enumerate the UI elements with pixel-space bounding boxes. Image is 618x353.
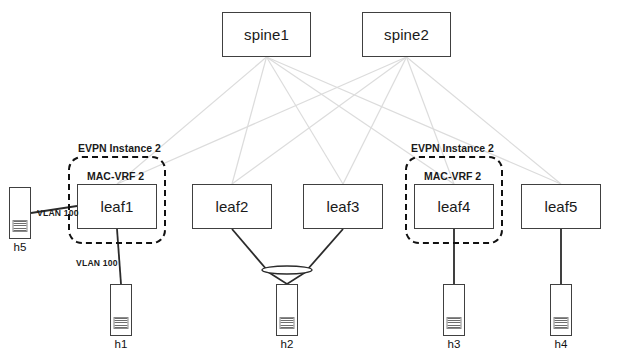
host-h4[interactable]: [550, 284, 572, 336]
spine-node-spine1[interactable]: spine1: [222, 12, 311, 57]
mac-vrf-label-1: MAC-VRF 2: [87, 170, 144, 182]
host-label-h5: h5: [0, 241, 45, 253]
server-vents-icon: [13, 220, 28, 232]
access-link-leaf3-h2: [307, 229, 343, 270]
host-h2[interactable]: [276, 284, 298, 336]
lag-ellipse-icon: [262, 266, 312, 274]
evpn-instance-title-2: EVPN Instance 2: [411, 142, 494, 154]
leaf-node-leaf3[interactable]: leaf3: [303, 184, 383, 229]
fabric-link-spine2-leaf2: [232, 57, 407, 184]
host-label-h2: h2: [262, 338, 312, 350]
fabric-link-spine1-leaf3: [267, 57, 344, 184]
server-vents-icon: [447, 317, 462, 329]
server-vents-icon: [280, 317, 295, 329]
mac-vrf-label-2: MAC-VRF 2: [424, 170, 481, 182]
server-vents-icon: [554, 317, 569, 329]
vlan-label-vlan-leaf1-h1: VLAN 100: [76, 258, 118, 268]
host-label-h3: h3: [429, 338, 479, 350]
leaf-node-leaf2[interactable]: leaf2: [192, 184, 272, 229]
vlan-label-vlan-h5-leaf1: VLAN 100: [37, 208, 79, 218]
fabric-link-spine2-leaf3: [343, 57, 407, 184]
host-label-h4: h4: [536, 338, 586, 350]
leaf-node-leaf5[interactable]: leaf5: [521, 184, 601, 229]
host-h3[interactable]: [443, 284, 465, 336]
host-h5[interactable]: [9, 187, 31, 239]
server-vents-icon: [114, 317, 129, 329]
host-h1[interactable]: [110, 284, 132, 336]
spine-node-spine2[interactable]: spine2: [362, 12, 451, 57]
lag-symbol: [262, 266, 312, 284]
access-link-leaf2-h2: [232, 229, 267, 270]
network-diagram-canvas: spine1spine2leaf1leaf2leaf3leaf4leaf5 EV…: [0, 0, 618, 353]
evpn-instance-title-1: EVPN Instance 2: [78, 142, 161, 154]
host-label-h1: h1: [96, 338, 146, 350]
